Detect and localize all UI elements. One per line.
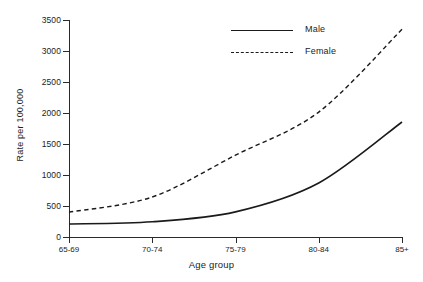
legend-swatch-female [231, 52, 293, 53]
chart-legend: Male Female [231, 22, 361, 66]
legend-item-male: Male [231, 22, 361, 44]
legend-label-male: Male [305, 24, 325, 34]
line-chart: 0500100015002000250030003500 65-6970-747… [0, 0, 423, 282]
x-axis-title: Age group [0, 259, 423, 270]
series-line-male [69, 122, 402, 224]
legend-swatch-male [231, 30, 293, 31]
y-axis-title: Rate per 100,000 [15, 65, 25, 185]
legend-item-female: Female [231, 44, 361, 66]
legend-label-female: Female [305, 46, 336, 56]
